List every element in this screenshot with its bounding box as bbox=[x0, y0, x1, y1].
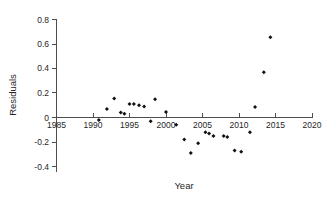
data-point bbox=[149, 119, 153, 123]
x-tick-label: 2010 bbox=[230, 120, 249, 130]
data-point bbox=[142, 104, 146, 108]
y-tick-label: 0.6 bbox=[37, 39, 49, 49]
data-point bbox=[105, 107, 109, 111]
scatter-plot-canvas: 0.8 0.6 0.4 0.2 0 -0.2 -0.4 1985 1990 19… bbox=[0, 0, 336, 199]
x-tick-label: 2000 bbox=[157, 120, 176, 130]
data-point bbox=[225, 135, 229, 139]
y-tick-label: 0.8 bbox=[37, 15, 49, 25]
data-point bbox=[222, 134, 226, 138]
x-tick-marks bbox=[57, 113, 313, 118]
data-point bbox=[153, 97, 157, 101]
data-point bbox=[112, 97, 116, 101]
data-point bbox=[207, 131, 211, 135]
data-point bbox=[137, 103, 141, 107]
data-point bbox=[196, 141, 200, 145]
data-point bbox=[122, 112, 126, 116]
data-point-group bbox=[97, 35, 273, 155]
data-point bbox=[132, 102, 136, 106]
x-tick-label: 2020 bbox=[303, 120, 322, 130]
data-point bbox=[182, 138, 186, 142]
data-point bbox=[164, 110, 168, 114]
x-axis-title: Year bbox=[174, 180, 193, 191]
y-tick-label: 0.4 bbox=[37, 63, 49, 73]
y-tick-marks bbox=[52, 20, 57, 167]
x-tick-label: 1990 bbox=[84, 120, 103, 130]
data-point bbox=[211, 134, 215, 138]
data-point bbox=[203, 130, 207, 134]
data-point bbox=[248, 130, 252, 134]
data-point bbox=[233, 149, 237, 153]
data-point bbox=[262, 70, 266, 74]
x-tick-labels: 1985 1990 1995 2000 2005 2010 2015 2020 bbox=[47, 120, 322, 130]
x-tick-label: 1985 bbox=[47, 120, 66, 130]
y-tick-label: -0.4 bbox=[34, 162, 49, 172]
data-point bbox=[239, 150, 243, 154]
y-tick-label: 0.2 bbox=[37, 88, 49, 98]
y-tick-label: -0.2 bbox=[34, 137, 49, 147]
data-point bbox=[128, 102, 132, 106]
y-axis-title: Residuals bbox=[7, 74, 18, 116]
data-point bbox=[253, 105, 257, 109]
x-tick-label: 2005 bbox=[193, 120, 212, 130]
data-point bbox=[189, 151, 193, 155]
data-point bbox=[268, 35, 272, 39]
x-tick-label: 2015 bbox=[266, 120, 285, 130]
x-tick-label: 1995 bbox=[120, 120, 139, 130]
residuals-scatter-figure: 0.8 0.6 0.4 0.2 0 -0.2 -0.4 1985 1990 19… bbox=[0, 0, 336, 199]
data-point bbox=[119, 111, 123, 115]
y-tick-labels: 0.8 0.6 0.4 0.2 0 -0.2 -0.4 bbox=[34, 15, 49, 172]
